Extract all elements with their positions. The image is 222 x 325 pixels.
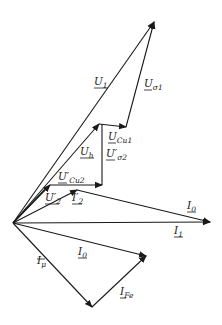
label-I0-upper: I0: [186, 199, 196, 214]
label-I1: I1: [173, 224, 183, 239]
label-Usigma1: Uσ1: [144, 77, 163, 92]
label-UCu1: UCu1: [108, 130, 132, 145]
label-UCu2-prime: U′Cu2: [58, 170, 85, 185]
phasor-diagram: U1 Uσ1 UCu1 Uh U′σ2 U′Cu2 U′2 I′2 I0 I1 …: [0, 0, 222, 325]
vector-Imu: [13, 223, 92, 307]
label-IFe: IFe: [119, 285, 134, 300]
vector-U2-prime-b: [13, 188, 46, 223]
vector-I1: [13, 222, 210, 223]
vector-Usigma1: [126, 22, 154, 127]
label-Uh: Uh: [80, 145, 94, 160]
vector-IFe: [92, 256, 146, 307]
label-I2-prime: I′2: [71, 191, 84, 206]
label-Usigma2-prime: U′σ2: [106, 147, 127, 162]
vector-Uh: [13, 124, 99, 223]
vector-U1: [13, 22, 154, 223]
label-U1: U1: [94, 75, 108, 90]
vector-UCu1: [99, 124, 126, 127]
label-I0: I0: [77, 245, 87, 260]
label-U2-prime: U′2: [45, 191, 61, 206]
